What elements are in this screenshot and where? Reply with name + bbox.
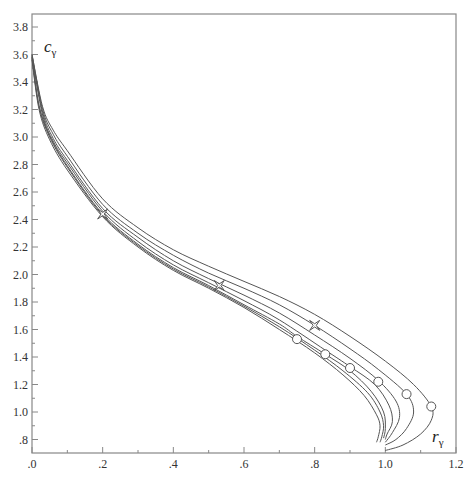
circle-marker xyxy=(346,364,355,373)
curves xyxy=(32,55,433,451)
circle-marker xyxy=(374,377,383,386)
y-tick-label: 3.6 xyxy=(13,48,28,62)
x-tick-label: 1.2 xyxy=(449,457,464,471)
y-tick-label: 2.6 xyxy=(13,185,28,199)
y-tick-label: 2.4 xyxy=(13,213,28,227)
curve-line xyxy=(32,59,384,443)
y-tick-label: 3.2 xyxy=(13,103,28,117)
y-tick-label: 2.0 xyxy=(13,268,28,282)
x-tick-label: .4 xyxy=(169,457,178,471)
curve-line xyxy=(32,60,380,442)
curve-line xyxy=(32,56,400,442)
y-tick-label: 3.4 xyxy=(13,75,28,89)
y-tick-label: 3.0 xyxy=(13,130,28,144)
curve-line xyxy=(32,57,392,439)
y-axis-title: cγ xyxy=(44,37,57,58)
circle-marker xyxy=(427,402,436,411)
plot-border xyxy=(32,14,456,453)
y-tick-label: 1.8 xyxy=(13,295,28,309)
x-axis-title: rγ xyxy=(432,427,444,448)
y-axis: .81.01.21.41.61.82.02.22.42.62.83.03.23.… xyxy=(13,20,38,447)
x-tick-label: .0 xyxy=(28,457,37,471)
x-axis: .0.2.4.6.81.01.2 xyxy=(28,447,464,471)
y-tick-label: 3.8 xyxy=(13,20,28,34)
x-tick-label: .2 xyxy=(98,457,107,471)
y-tick-label: 1.6 xyxy=(13,323,28,337)
y-tick-label: 1.0 xyxy=(13,405,28,419)
star-marker xyxy=(98,209,108,219)
star-marker xyxy=(310,320,320,330)
x-tick-label: .8 xyxy=(310,457,319,471)
circle-marker xyxy=(321,350,330,359)
circle-marker xyxy=(402,390,411,399)
curve-line xyxy=(32,57,385,438)
circle-marker xyxy=(293,335,302,344)
markers xyxy=(98,209,436,411)
y-tick-label: 2.2 xyxy=(13,240,28,254)
y-tick-label: 2.8 xyxy=(13,158,28,172)
curve-line xyxy=(32,55,433,451)
x-tick-label: 1.0 xyxy=(378,457,393,471)
y-tick-label: 1.2 xyxy=(13,378,28,392)
curve-line xyxy=(32,55,414,446)
y-tick-label: .8 xyxy=(19,433,28,447)
chart-canvas: .81.01.21.41.61.82.02.22.42.62.83.03.23.… xyxy=(0,0,473,480)
x-tick-label: .6 xyxy=(240,457,249,471)
plot-frame xyxy=(32,14,456,453)
y-tick-label: 1.4 xyxy=(13,350,28,364)
